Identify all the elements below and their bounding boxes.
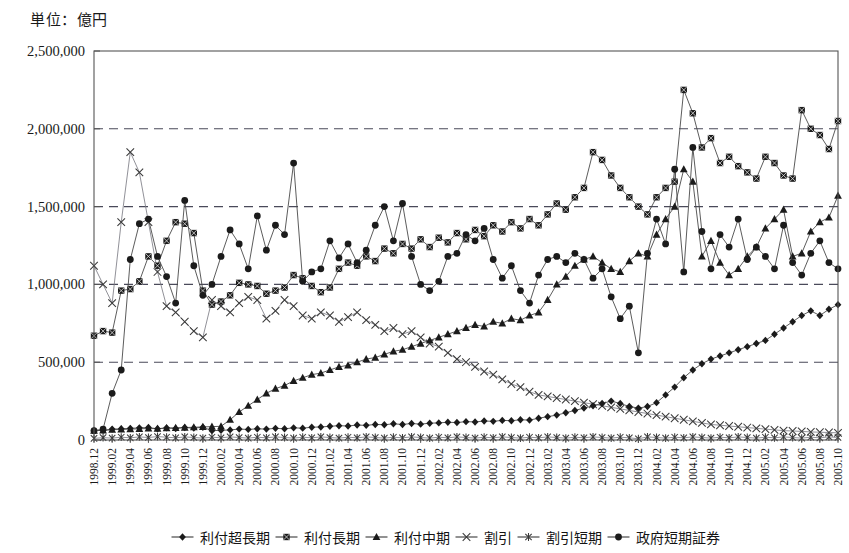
x-tick-label: 2000.10 — [288, 448, 300, 486]
x-tick-label: 2004.12 — [741, 448, 753, 486]
y-tick-label: 500,000 — [38, 354, 85, 370]
x-tick-label: 2001.08 — [378, 448, 390, 486]
series-triangle — [90, 165, 842, 434]
legend-label: 政府短期証券 — [636, 530, 720, 546]
y-tick-label: 1,500,000 — [27, 199, 85, 215]
x-tick-label: 2003.12 — [632, 448, 644, 486]
x-tick-label: 2004.10 — [723, 448, 735, 486]
x-tick-label: 2000.08 — [269, 448, 281, 486]
series-square — [91, 87, 841, 339]
x-tick-label: 2004.04 — [669, 448, 681, 486]
legend-item-circle[interactable]: 政府短期証券 — [608, 530, 720, 546]
legend-label: 利付長期 — [304, 530, 360, 546]
x-tick-label: 2000.06 — [251, 448, 263, 486]
x-tick-label: 2003.08 — [596, 448, 608, 486]
series-layer — [90, 87, 842, 443]
x-tick-label: 2001.06 — [360, 448, 372, 486]
x-tick-label: 1999.12 — [197, 448, 209, 486]
x-tick-label: 2002.12 — [524, 448, 536, 486]
series-asterisk — [91, 433, 841, 443]
securities-outstanding-line-chart: 0500,0001,000,0001,500,0002,000,0002,500… — [0, 0, 849, 553]
x-tick-label: 2002.02 — [433, 448, 445, 486]
legend-label: 利付超長期 — [200, 530, 270, 546]
x-tick-label: 2005.02 — [759, 448, 771, 486]
x-axis-ticks: 1998.121999.021999.041999.061999.081999.… — [88, 440, 844, 485]
x-tick-label: 2001.12 — [415, 448, 427, 486]
x-tick-label: 2000.04 — [233, 448, 245, 486]
x-tick-label: 2001.02 — [324, 448, 336, 486]
x-tick-label: 2002.06 — [469, 448, 481, 486]
legend-item-diamond[interactable]: 利付超長期 — [172, 530, 270, 546]
legend-label: 利付中期 — [394, 530, 450, 546]
legend-label: 割引短期 — [546, 530, 602, 546]
x-tick-label: 2000.12 — [306, 448, 318, 486]
x-tick-label: 2000.02 — [215, 448, 227, 486]
y-tick-label: 2,500,000 — [27, 43, 85, 59]
x-tick-label: 1999.04 — [124, 448, 136, 486]
x-tick-label: 2003.10 — [614, 448, 626, 486]
x-tick-label: 1998.12 — [88, 448, 100, 486]
legend-item-x[interactable]: 割引 — [456, 530, 512, 546]
x-tick-label: 1999.08 — [161, 448, 173, 486]
x-tick-label: 2003.06 — [578, 448, 590, 486]
y-tick-label: 2,000,000 — [27, 121, 85, 137]
x-tick-label: 2005.08 — [814, 448, 826, 486]
legend-item-square[interactable]: 利付長期 — [276, 530, 360, 546]
x-tick-label: 1999.02 — [106, 448, 118, 486]
x-tick-label: 2005.06 — [796, 448, 808, 486]
x-tick-label: 2002.08 — [487, 448, 499, 486]
legend-item-asterisk[interactable]: 割引短期 — [518, 530, 602, 546]
x-tick-label: 2001.04 — [342, 448, 354, 486]
x-tick-label: 1999.06 — [142, 448, 154, 486]
chart-legend: 利付超長期利付長期利付中期割引割引短期政府短期証券 — [172, 530, 720, 546]
x-tick-label: 2004.02 — [651, 448, 663, 486]
series-diamond — [91, 301, 842, 434]
legend-item-triangle[interactable]: 利付中期 — [366, 530, 450, 546]
y-tick-label: 1,000,000 — [27, 276, 85, 292]
y-tick-label: 0 — [78, 432, 85, 448]
chart-page: 単位：億円 0500,0001,000,0001,500,0002,000,00… — [0, 0, 849, 553]
x-tick-label: 2003.04 — [560, 448, 572, 486]
x-tick-label: 2002.10 — [505, 448, 517, 486]
legend-label: 割引 — [484, 530, 512, 546]
x-tick-label: 2005.04 — [778, 448, 790, 486]
x-tick-label: 2002.04 — [451, 448, 463, 486]
x-tick-label: 2003.02 — [542, 448, 554, 486]
y-axis-ticks: 0500,0001,000,0001,500,0002,000,0002,500… — [27, 43, 100, 448]
x-tick-label: 2001.10 — [396, 448, 408, 486]
x-tick-label: 1999.10 — [179, 448, 191, 486]
x-tick-label: 2004.06 — [687, 448, 699, 486]
x-tick-label: 2005.10 — [832, 448, 844, 486]
x-tick-label: 2004.08 — [705, 448, 717, 486]
